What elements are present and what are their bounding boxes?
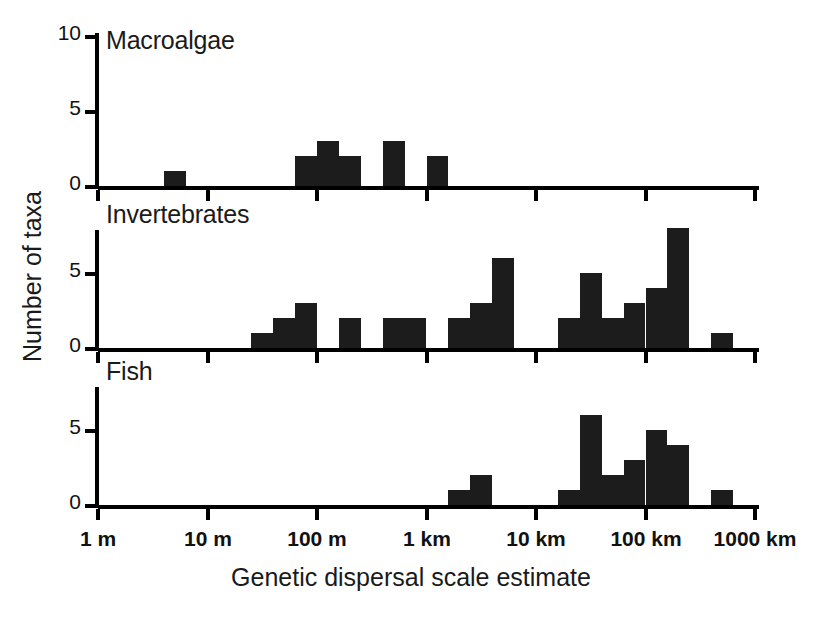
bar-invertebrates-9 [295, 303, 317, 348]
x-tick-mark-5-p0 [644, 190, 648, 201]
bar-macroalgae-11 [339, 156, 361, 186]
bar-invertebrates-8 [273, 318, 295, 348]
y-tick-label-macroalgae-10: 10 [36, 21, 81, 45]
bar-invertebrates-24 [624, 303, 646, 348]
bar-invertebrates-7 [251, 333, 273, 348]
y-tick-macroalgae-0 [85, 185, 98, 189]
y-tick-label-invertebrates-5: 5 [36, 258, 81, 282]
bar-fish-23 [602, 475, 624, 505]
x-tick-mark-0-p2 [96, 509, 100, 520]
y-tick-label-macroalgae-0: 0 [36, 171, 81, 195]
x-tick-mark-0-p1 [96, 352, 100, 363]
x-tick-mark-2-p2 [315, 509, 319, 520]
x-tick-mark-6-p2 [753, 509, 757, 520]
bar-invertebrates-14 [405, 318, 427, 348]
bar-fish-16 [448, 490, 470, 505]
bar-fish-24 [624, 460, 646, 505]
bar-invertebrates-22 [580, 273, 602, 348]
panel-label-invertebrates: Invertebrates [106, 200, 249, 229]
bar-macroalgae-9 [295, 156, 317, 186]
bar-fish-17 [470, 475, 492, 505]
x-tick-label-4: 10 km [476, 527, 596, 551]
x-tick-mark-4-p0 [534, 190, 538, 201]
y-tick-macroalgae-10 [85, 35, 98, 39]
bar-invertebrates-16 [448, 318, 470, 348]
bar-invertebrates-11 [339, 318, 361, 348]
x-tick-label-0: 1 m [38, 527, 158, 551]
x-tick-mark-6-p1 [753, 352, 757, 363]
y-axis-spine-invertebrates [95, 230, 99, 350]
x-tick-label-5: 100 km [586, 527, 706, 551]
x-tick-mark-1-p2 [206, 509, 210, 520]
bar-invertebrates-13 [383, 318, 405, 348]
bar-invertebrates-25 [646, 288, 668, 348]
x-tick-mark-4-p1 [534, 352, 538, 363]
bar-invertebrates-26 [667, 228, 689, 348]
x-tick-label-3: 1 km [367, 527, 487, 551]
y-tick-label-macroalgae-5: 5 [36, 96, 81, 120]
y-tick-label-fish-0: 0 [36, 490, 81, 514]
y-tick-macroalgae-5 [85, 110, 98, 114]
x-tick-mark-1-p0 [206, 190, 210, 201]
x-tick-mark-3-p1 [425, 352, 429, 363]
bar-invertebrates-18 [492, 258, 514, 348]
bar-invertebrates-23 [602, 318, 624, 348]
bar-invertebrates-28 [711, 333, 733, 348]
panel-label-macroalgae: Macroalgae [106, 26, 235, 55]
y-tick-fish-0 [85, 504, 98, 508]
bar-macroalgae-10 [317, 141, 339, 186]
y-tick-label-invertebrates-0: 0 [36, 333, 81, 357]
x-tick-mark-1-p1 [206, 352, 210, 363]
x-tick-mark-4-p2 [534, 509, 538, 520]
bar-fish-21 [558, 490, 580, 505]
x-tick-label-1: 10 m [148, 527, 268, 551]
x-tick-mark-5-p1 [644, 352, 648, 363]
x-tick-mark-0-p0 [96, 190, 100, 201]
y-tick-label-fish-5: 5 [36, 415, 81, 439]
bar-fish-22 [580, 415, 602, 505]
y-tick-fish-5 [85, 429, 98, 433]
bar-fish-28 [711, 490, 733, 505]
bar-macroalgae-3 [164, 171, 186, 186]
x-tick-mark-2-p1 [315, 352, 319, 363]
y-tick-invertebrates-5 [85, 272, 98, 276]
y-tick-invertebrates-0 [85, 347, 98, 351]
bar-fish-26 [667, 445, 689, 505]
y-axis-spine-fish [95, 387, 99, 507]
x-tick-label-2: 100 m [257, 527, 377, 551]
bar-fish-25 [646, 430, 668, 505]
x-tick-mark-3-p0 [425, 190, 429, 201]
x-tick-mark-6-p0 [753, 190, 757, 201]
bar-macroalgae-13 [383, 141, 405, 186]
chart-figure: Number of taxa Genetic dispersal scale e… [0, 0, 822, 625]
x-tick-label-6: 1000 km [695, 527, 815, 551]
x-axis-title: Genetic dispersal scale estimate [0, 563, 822, 592]
x-tick-mark-5-p2 [644, 509, 648, 520]
x-tick-mark-3-p2 [425, 509, 429, 520]
panel-label-fish: Fish [106, 357, 152, 386]
bar-invertebrates-17 [470, 303, 492, 348]
bar-macroalgae-15 [427, 156, 449, 186]
bar-invertebrates-21 [558, 318, 580, 348]
x-tick-mark-2-p0 [315, 190, 319, 201]
